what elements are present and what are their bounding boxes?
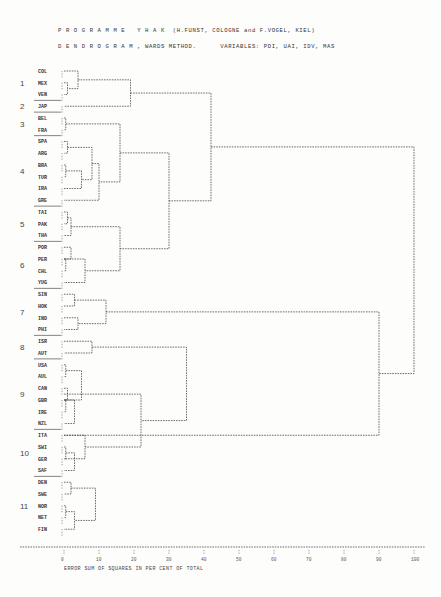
leaf-label: PER bbox=[38, 257, 47, 263]
leaf-label: IRA bbox=[38, 186, 47, 192]
leaf-label: IND bbox=[38, 316, 47, 322]
leaf-label: FRA bbox=[38, 128, 47, 134]
merge-link bbox=[64, 482, 71, 494]
cluster-number: 7 bbox=[20, 308, 25, 317]
leaf-label: SWE bbox=[38, 492, 47, 498]
leaf-label: GBR bbox=[38, 398, 47, 404]
merge-link bbox=[64, 259, 85, 283]
merge-link bbox=[92, 347, 187, 420]
x-tick-label: 70 bbox=[306, 557, 312, 562]
x-tick-label: 60 bbox=[271, 557, 277, 562]
merge-link bbox=[66, 124, 120, 182]
leaf-label: BEL bbox=[38, 116, 47, 122]
leaf-label: NZL bbox=[38, 421, 47, 427]
leaf-label: CHL bbox=[38, 269, 47, 275]
merge-link bbox=[64, 365, 66, 377]
merge-link bbox=[64, 371, 82, 400]
leaf-label: DEN bbox=[38, 480, 47, 486]
leaf-label: PHI bbox=[38, 327, 47, 333]
leaf-label: NET bbox=[38, 515, 47, 521]
dendrogram-chart: COLMEXVENJAPBELFRASPAARGBRATURIRAGRETAIP… bbox=[0, 0, 441, 597]
merge-link bbox=[64, 259, 66, 271]
leaf-label: BRA bbox=[38, 163, 47, 169]
leaf-label: YUG bbox=[38, 280, 47, 286]
x-tick-label: 50 bbox=[236, 557, 242, 562]
leaf-label: USA bbox=[38, 363, 47, 369]
merge-link bbox=[64, 142, 68, 154]
leaf-label: CAN bbox=[38, 386, 47, 392]
merge-link bbox=[75, 300, 107, 324]
merge-link bbox=[64, 212, 68, 224]
leaf-label: SAF bbox=[38, 468, 47, 474]
merge-link bbox=[120, 153, 169, 249]
merge-link bbox=[64, 294, 75, 306]
x-tick-label: 90 bbox=[376, 557, 382, 562]
merge-link bbox=[64, 318, 78, 330]
cluster-number: 10 bbox=[20, 449, 29, 458]
cluster-number: 1 bbox=[20, 79, 25, 88]
merge-link bbox=[64, 506, 66, 518]
leaf-label: ITA bbox=[38, 433, 47, 439]
cluster-number: 11 bbox=[20, 502, 29, 511]
merge-link bbox=[64, 247, 71, 259]
merge-link bbox=[64, 341, 92, 353]
leaf-label: GER bbox=[38, 457, 47, 463]
leaf-label: GRE bbox=[38, 198, 47, 204]
merge-link bbox=[64, 83, 68, 95]
leaf-label: HOK bbox=[38, 304, 47, 310]
merge-link bbox=[64, 118, 66, 130]
leaf-label: SPA bbox=[38, 139, 47, 145]
x-tick-label: 0 bbox=[61, 557, 64, 562]
leaf-label: NOR bbox=[38, 504, 47, 510]
merge-link bbox=[64, 312, 379, 435]
leaf-label: TUR bbox=[38, 175, 47, 181]
leaf-label: ISR bbox=[38, 339, 47, 345]
x-tick-label: 40 bbox=[201, 557, 207, 562]
leaf-label: TAI bbox=[38, 210, 47, 216]
leaf-label: SWI bbox=[38, 445, 47, 451]
merge-link bbox=[64, 80, 131, 106]
cluster-number: 8 bbox=[20, 343, 25, 352]
leaf-label: COL bbox=[38, 69, 47, 75]
cluster-number: 5 bbox=[20, 220, 25, 229]
merge-link bbox=[68, 147, 93, 179]
leaf-label: ARG bbox=[38, 151, 47, 157]
leaf-label: SIN bbox=[38, 292, 47, 298]
leaf-label: IRE bbox=[38, 410, 47, 416]
cluster-number: 3 bbox=[20, 120, 25, 129]
merge-link bbox=[71, 227, 120, 271]
merge-link bbox=[71, 488, 96, 520]
leaf-label: AUT bbox=[38, 351, 47, 357]
merge-link bbox=[64, 165, 66, 177]
cluster-number: 6 bbox=[20, 261, 25, 270]
cluster-number: 9 bbox=[20, 390, 25, 399]
merge-link bbox=[64, 218, 71, 236]
leaf-label: MEX bbox=[38, 81, 47, 87]
cluster-number: 4 bbox=[20, 167, 25, 176]
leaf-label: JAP bbox=[38, 104, 47, 110]
x-tick-label: 80 bbox=[341, 557, 347, 562]
merge-link bbox=[131, 93, 212, 201]
x-axis-label: ERROR SUM OF SQUARES IN PER CENT OF TOTA… bbox=[64, 566, 203, 572]
merge-link bbox=[64, 171, 82, 189]
merge-link bbox=[64, 394, 141, 447]
merge-link bbox=[211, 147, 414, 374]
leaf-label: VEN bbox=[38, 92, 47, 98]
leaf-label: THA bbox=[38, 233, 47, 239]
merge-link bbox=[64, 453, 75, 471]
merge-link bbox=[64, 71, 78, 89]
leaf-label: PAK bbox=[38, 222, 47, 228]
x-tick-label: 10 bbox=[96, 557, 102, 562]
cluster-number: 2 bbox=[20, 102, 25, 111]
leaf-label: AUL bbox=[38, 374, 47, 380]
x-tick-label: 30 bbox=[166, 557, 172, 562]
leaf-label: POR bbox=[38, 245, 47, 251]
leaf-label: FIN bbox=[38, 527, 47, 533]
merge-link bbox=[64, 400, 66, 412]
merge-link bbox=[64, 447, 66, 459]
x-tick-label: 100 bbox=[411, 557, 419, 562]
x-tick-label: 20 bbox=[131, 557, 137, 562]
merge-link bbox=[64, 512, 75, 530]
